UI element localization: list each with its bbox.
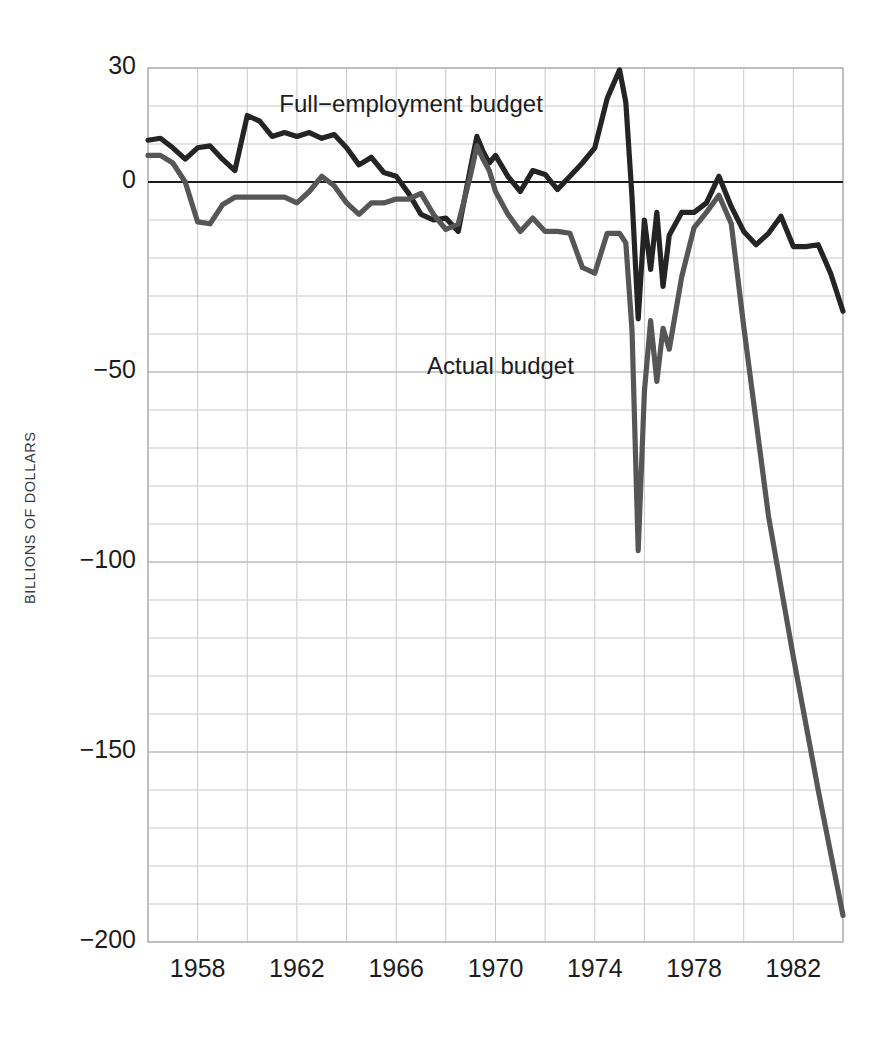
series-annotation-2: Actual budget: [427, 352, 574, 380]
y-axis-label: BILLIONS OF DOLLARS: [22, 378, 62, 658]
x-tick-label: 1966: [351, 954, 441, 983]
series-annotation-1: Full−employment budget: [279, 90, 542, 118]
y-tick-label: −50: [36, 355, 136, 384]
x-tick-label: 1958: [153, 954, 243, 983]
y-tick-label: 30: [36, 51, 136, 80]
x-tick-label: 1970: [451, 954, 541, 983]
x-tick-label: 1978: [649, 954, 739, 983]
y-tick-label: −200: [36, 925, 136, 954]
y-tick-label: −150: [36, 735, 136, 764]
budget-deficit-chart: BILLIONS OF DOLLARS 300−50−100−150−200 1…: [0, 0, 894, 1037]
y-tick-label: 0: [36, 165, 136, 194]
y-tick-label: −100: [36, 545, 136, 574]
x-tick-label: 1962: [252, 954, 342, 983]
x-tick-label: 1982: [748, 954, 838, 983]
plot-area: [0, 0, 894, 1037]
x-tick-label: 1974: [550, 954, 640, 983]
